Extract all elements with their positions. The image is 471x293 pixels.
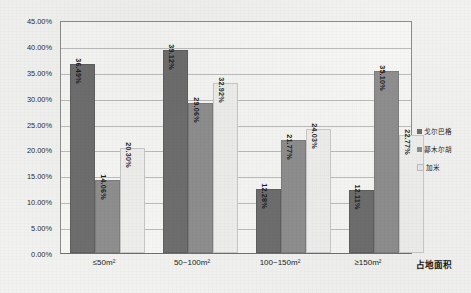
y-axis-tick-label: 45.00% bbox=[27, 17, 52, 26]
legend-swatch-icon bbox=[417, 129, 422, 134]
y-axis-tick-label: 0.00% bbox=[31, 250, 52, 259]
bar[interactable]: 39.12% bbox=[163, 50, 188, 253]
y-axis-tick-label: 35.00% bbox=[27, 68, 52, 77]
legend-swatch-icon bbox=[417, 147, 422, 152]
bar[interactable]: 20.30% bbox=[120, 148, 145, 253]
y-axis-tick-label: 30.00% bbox=[27, 94, 52, 103]
legend-item[interactable]: 戈尔巴格 bbox=[417, 126, 471, 136]
legend-item[interactable]: 加米 bbox=[417, 162, 471, 172]
bar-group: 36.49%14.06%20.30% bbox=[61, 22, 154, 253]
x-axis-tick-label: ≤50m² bbox=[60, 258, 148, 274]
bar-value-label: 20.30% bbox=[124, 142, 133, 168]
bar-group: 12.28%21.77%24.03% bbox=[247, 22, 340, 253]
y-axis-tick-label: 25.00% bbox=[27, 120, 52, 129]
x-axis-title: 占地面积 bbox=[416, 258, 452, 270]
y-axis-tick-label: 40.00% bbox=[27, 42, 52, 51]
bar-value-label: 24.03% bbox=[310, 123, 319, 149]
legend-label: 戈尔巴格 bbox=[424, 126, 452, 136]
y-axis-tick-label: 5.00% bbox=[31, 224, 52, 233]
bar-value-label: 14.06% bbox=[99, 174, 108, 200]
bar[interactable]: 36.49% bbox=[70, 64, 95, 253]
bar[interactable]: 12.11% bbox=[349, 190, 374, 253]
y-axis-tick-label: 15.00% bbox=[27, 172, 52, 181]
bar-groups: 36.49%14.06%20.30%39.12%29.06%32.92%12.2… bbox=[61, 22, 411, 253]
bar[interactable]: 29.06% bbox=[188, 103, 213, 253]
y-axis: 0.00%5.00%10.00%15.00%20.00%25.00%30.00%… bbox=[0, 21, 56, 254]
x-axis-labels: ≤50m²50~100m²100~150m²≥150m² bbox=[60, 258, 412, 274]
bar[interactable]: 24.03% bbox=[306, 129, 331, 253]
bar-group: 39.12%29.06%32.92% bbox=[154, 22, 247, 253]
legend: 戈尔巴格鄯木尔胡加米 bbox=[417, 126, 471, 172]
bar-value-label: 12.11% bbox=[353, 185, 362, 210]
plot-area: 36.49%14.06%20.30%39.12%29.06%32.92%12.2… bbox=[60, 21, 412, 254]
bar-value-label: 12.28% bbox=[260, 184, 269, 210]
y-axis-tick-label: 10.00% bbox=[27, 198, 52, 207]
bar[interactable]: 35.10% bbox=[374, 71, 399, 253]
bar-value-label: 29.06% bbox=[192, 97, 201, 123]
legend-swatch-icon bbox=[417, 164, 424, 171]
bar-value-label: 22.77% bbox=[403, 129, 412, 155]
bar[interactable]: 14.06% bbox=[95, 180, 120, 253]
bar-value-label: 32.92% bbox=[217, 77, 226, 103]
bar[interactable]: 12.28% bbox=[256, 189, 281, 253]
legend-item[interactable]: 鄯木尔胡 bbox=[417, 144, 471, 154]
x-axis-tick-label: ≥150m² bbox=[324, 258, 412, 274]
bar-value-label: 21.77% bbox=[285, 134, 294, 160]
y-axis-tick-label: 20.00% bbox=[27, 146, 52, 155]
x-axis-tick-label: 50~100m² bbox=[148, 258, 236, 274]
bar-value-label: 39.12% bbox=[167, 45, 176, 71]
bar[interactable]: 21.77% bbox=[281, 140, 306, 253]
legend-label: 加米 bbox=[426, 162, 440, 172]
bar-value-label: 35.10% bbox=[378, 65, 387, 91]
bar-chart: 0.00%5.00%10.00%15.00%20.00%25.00%30.00%… bbox=[0, 0, 471, 293]
x-axis-tick-label: 100~150m² bbox=[236, 258, 324, 274]
bar[interactable]: 32.92% bbox=[213, 83, 238, 253]
bar-value-label: 36.49% bbox=[74, 58, 83, 84]
legend-label: 鄯木尔胡 bbox=[424, 144, 452, 154]
